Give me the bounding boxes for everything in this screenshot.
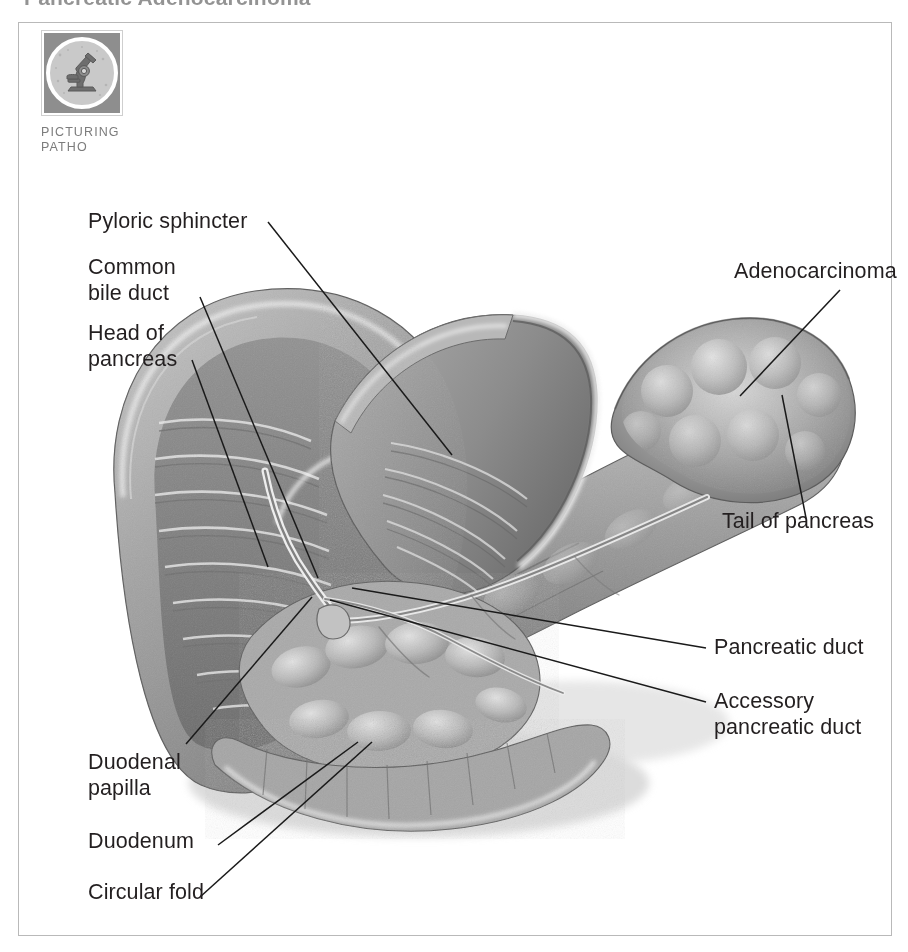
label-common-bile-duct: Common bile duct [88, 254, 176, 306]
picturing-patho-badge: PICTURING PATHO [41, 30, 125, 155]
badge-label: PICTURING PATHO [41, 125, 125, 155]
label-accessory-pancreatic-duct: Accessory pancreatic duct [714, 688, 861, 740]
figure-page: Pancreatic Adenocarcinoma [0, 0, 908, 952]
label-tail-of-pancreas: Tail of pancreas [722, 508, 874, 534]
label-adenocarcinoma: Adenocarcinoma [734, 258, 897, 284]
running-title: Pancreatic Adenocarcinoma [24, 0, 311, 10]
badge-circle [46, 37, 118, 109]
label-head-of-pancreas: Head of pancreas [88, 320, 177, 372]
label-duodenal-papilla: Duodenal papilla [88, 749, 181, 801]
label-duodenum: Duodenum [88, 828, 194, 854]
badge-label-line1: PICTURING [41, 125, 125, 140]
badge-label-line2: PATHO [41, 140, 125, 155]
badge-tile [41, 30, 123, 116]
label-circular-fold: Circular fold [88, 879, 204, 905]
label-pancreatic-duct: Pancreatic duct [714, 634, 864, 660]
speckle-texture [50, 41, 114, 105]
label-pyloric-sphincter: Pyloric sphincter [88, 208, 247, 234]
microscope-icon [56, 47, 108, 99]
